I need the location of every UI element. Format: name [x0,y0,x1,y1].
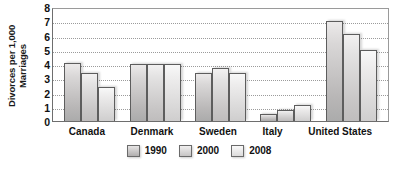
y-axis-tick-label: 6 [36,31,50,42]
x-axis-label-sweden: Sweden [199,124,237,140]
x-axis-label-united-states: United States [308,124,372,140]
bar-canada-1990 [64,63,81,121]
bar-italy-1990 [260,114,277,121]
legend: 199020002008 [0,145,398,157]
x-axis-category-labels: CanadaDenmarkSwedenItalyUnited States [52,124,389,140]
bar-sweden-2000 [212,68,229,121]
legend-label-2008: 2008 [249,145,271,157]
legend-label-1990: 1990 [145,145,167,157]
legend-label-2000: 2000 [197,145,219,157]
y-axis-title-line-2: Marriages [17,24,28,106]
bar-sweden-1990 [195,73,212,121]
y-axis-title-line-1: Divorces per 1,000 [6,24,17,106]
bar-denmark-2008 [164,64,181,121]
y-axis-tick-label: 2 [36,88,50,99]
plot-area [52,8,389,122]
y-axis-tick-label: 1 [36,103,50,114]
bar-sweden-2008 [229,73,246,121]
legend-swatch-2000 [179,145,192,157]
legend-swatch-2008 [231,145,244,157]
bar-denmark-2000 [147,64,164,121]
bar-group-canada [64,9,115,121]
bar-group-united-states [326,9,377,121]
bar-italy-2008 [294,105,311,121]
bar-group-italy [260,9,311,121]
y-axis-tick-label: 4 [36,60,50,71]
bar-denmark-1990 [130,64,147,121]
x-axis-label-denmark: Denmark [131,124,174,140]
bar-canada-2000 [81,73,98,121]
bar-italy-2000 [277,110,294,121]
x-axis-label-canada: Canada [69,124,105,140]
y-axis-title: Divorces per 1,000 Marriages [0,8,34,123]
bar-group-sweden [195,9,246,121]
y-axis-tick-label: 7 [36,17,50,28]
legend-swatch-1990 [127,145,140,157]
y-axis-tick-label: 3 [36,74,50,85]
bar-groups [53,9,388,121]
bar-united-states-1990 [326,21,343,121]
y-axis-tick-label: 5 [36,46,50,57]
legend-item-2008: 2008 [231,145,271,157]
y-axis-tick-label: 0 [36,117,50,128]
legend-item-2000: 2000 [179,145,219,157]
bar-united-states-2008 [360,50,377,121]
bar-united-states-2000 [343,34,360,121]
x-axis-label-italy: Italy [263,124,283,140]
bar-group-denmark [130,9,181,121]
bar-chart: Divorces per 1,000 Marriages 876543210 C… [0,0,398,178]
y-axis-tick-label: 8 [36,3,50,14]
bar-canada-2008 [98,87,115,121]
legend-item-1990: 1990 [127,145,167,157]
